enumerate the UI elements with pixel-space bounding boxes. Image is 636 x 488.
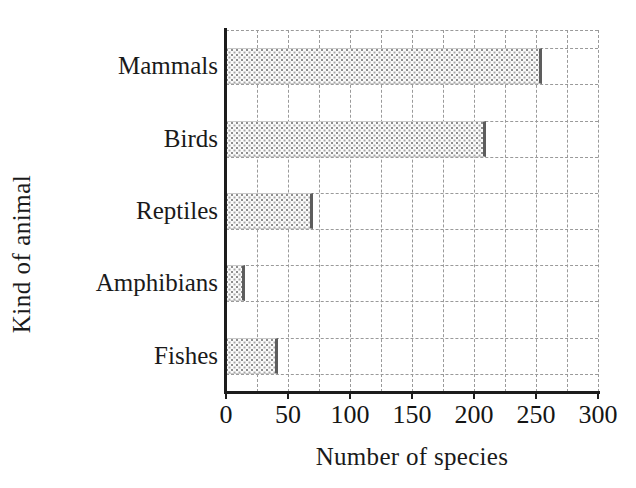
x-tick-label-0: 0	[191, 398, 261, 432]
y-gridline	[226, 157, 598, 158]
chart-figure: Kind of animal Number of species Mammals…	[0, 0, 636, 488]
y-gridline	[226, 301, 598, 302]
y-gridline	[226, 265, 598, 266]
x-tick-label-300: 300	[563, 398, 633, 432]
y-gridline	[226, 30, 598, 31]
y-tick-label-mammals: Mammals	[0, 51, 218, 81]
y-gridline	[226, 374, 598, 375]
x-tick-label-100: 100	[315, 398, 385, 432]
x-tick-label-50: 50	[253, 398, 323, 432]
x-gridline	[598, 30, 599, 392]
x-tick-label-250: 250	[501, 398, 571, 432]
bar-amphibians	[226, 265, 245, 301]
y-tick-label-birds: Birds	[0, 124, 218, 154]
y-tick-label-amphibians: Amphibians	[0, 268, 218, 298]
y-gridline	[226, 84, 598, 85]
bar-fishes	[226, 338, 278, 374]
y-gridline	[226, 338, 598, 339]
x-axis-title: Number of species	[226, 443, 598, 471]
y-gridline	[226, 229, 598, 230]
y-axis-title: Kind of animal	[0, 139, 44, 369]
x-tick-label-200: 200	[439, 398, 509, 432]
y-tick-label-reptiles: Reptiles	[0, 196, 218, 226]
x-tick-label-150: 150	[377, 398, 447, 432]
y-tick-label-fishes: Fishes	[0, 341, 218, 371]
bar-mammals	[226, 48, 542, 84]
bar-reptiles	[226, 193, 313, 229]
bar-birds	[226, 121, 486, 157]
y-axis-line	[224, 28, 227, 394]
plot-area	[226, 30, 598, 392]
